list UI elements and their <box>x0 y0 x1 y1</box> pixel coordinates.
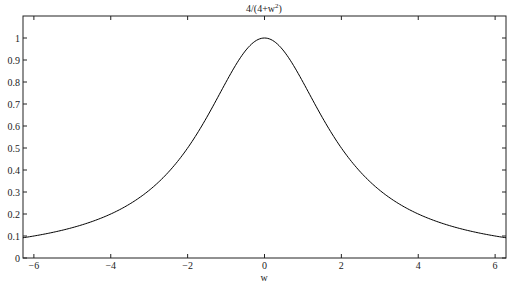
y-tick-label: 0 <box>15 253 20 264</box>
y-tick-label: 0.2 <box>8 209 21 220</box>
x-tick-label: 4 <box>416 260 421 271</box>
y-tick-label: 0.1 <box>8 231 21 242</box>
x-tick-label: −6 <box>29 260 40 271</box>
x-tick-label: 6 <box>493 260 498 271</box>
chart-canvas: −6−4−2024600.10.20.30.40.50.60.70.80.91 … <box>0 0 513 287</box>
x-tick-label: −4 <box>105 260 116 271</box>
chart-title: 4/(4+w2) <box>246 2 282 15</box>
y-tick-label: 0.3 <box>8 187 21 198</box>
plot-frame <box>23 16 506 258</box>
x-axis-label: w <box>260 272 268 283</box>
y-tick-label: 0.4 <box>8 165 21 176</box>
series-line <box>23 38 506 238</box>
y-tick-label: 1 <box>15 33 20 44</box>
y-tick-label: 0.7 <box>8 99 21 110</box>
x-tick-label: −2 <box>182 260 193 271</box>
y-tick-label: 0.5 <box>8 143 21 154</box>
plot-axes: −6−4−2024600.10.20.30.40.50.60.70.80.91 <box>8 16 507 271</box>
x-tick-label: 2 <box>339 260 344 271</box>
y-tick-label: 0.9 <box>8 55 21 66</box>
y-tick-label: 0.8 <box>8 77 21 88</box>
y-tick-label: 0.6 <box>8 121 21 132</box>
x-tick-label: 0 <box>262 260 267 271</box>
